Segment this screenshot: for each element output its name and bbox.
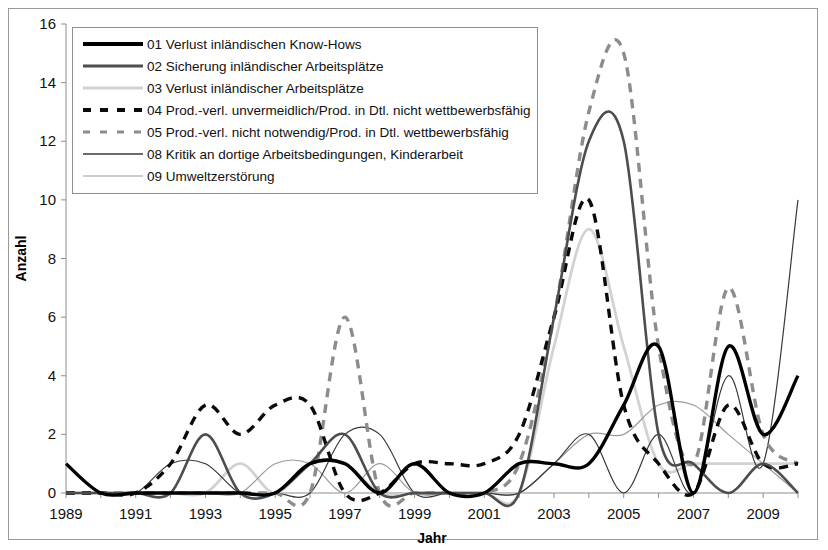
legend-item-02: 02 Sicherung inländischer Arbeitsplätze (79, 55, 531, 77)
legend-item-04: 04 Prod.-verl. unvermeidlich/Prod. in Dt… (79, 99, 531, 121)
legend-swatch-02 (79, 55, 147, 77)
x-tick-label: 1995 (258, 505, 291, 522)
x-tick-label: 1999 (398, 505, 431, 522)
legend-label-09: 09 Umweltzerstörung (147, 169, 275, 184)
legend-swatch-08 (79, 143, 147, 165)
axis-titles: AnzahlJahr (13, 236, 447, 546)
y-tick-label: 6 (48, 308, 56, 325)
legend-swatch-09 (79, 165, 147, 187)
legend-swatch-03 (79, 77, 147, 99)
legend-item-03: 03 Verlust inländischer Arbeitsplätze (79, 77, 531, 99)
x-tick-label: 1993 (189, 505, 222, 522)
x-tick-label: 2005 (607, 505, 640, 522)
x-tick-label: 1989 (49, 505, 82, 522)
x-tick-label: 2001 (468, 505, 501, 522)
legend-item-08: 08 Kritik an dortige Arbeitsbedingungen,… (79, 143, 531, 165)
series-line-01 (66, 344, 798, 497)
y-tick-label: 4 (48, 367, 56, 384)
x-tick-label: 1997 (328, 505, 361, 522)
y-tick-label: 0 (48, 484, 56, 501)
legend-label-05: 05 Prod.-verl. nicht notwendig/Prod. in … (147, 125, 509, 140)
legend-label-04: 04 Prod.-verl. unvermeidlich/Prod. in Dt… (147, 103, 530, 118)
x-tick-label: 2009 (746, 505, 779, 522)
x-tick-label: 2003 (537, 505, 570, 522)
series-line-04 (66, 198, 798, 500)
legend-label-08: 08 Kritik an dortige Arbeitsbedingungen,… (147, 147, 463, 162)
legend-item-05: 05 Prod.-verl. nicht notwendig/Prod. in … (79, 121, 531, 143)
legend-item-09: 09 Umweltzerstörung (79, 165, 531, 187)
legend-swatch-05 (79, 121, 147, 143)
y-tick-label: 10 (39, 191, 56, 208)
y-axis-title: Anzahl (13, 236, 29, 282)
legend-label-02: 02 Sicherung inländischer Arbeitsplätze (147, 59, 383, 74)
legend-label-01: 01 Verlust inländischen Know-Hows (147, 37, 362, 52)
y-tick-label: 2 (48, 425, 56, 442)
y-tick-label: 14 (39, 74, 56, 91)
legend-item-01: 01 Verlust inländischen Know-Hows (79, 33, 531, 55)
y-tick-label: 12 (39, 132, 56, 149)
y-tick-label: 8 (48, 250, 56, 267)
x-tick-label: 2007 (677, 505, 710, 522)
legend-label-03: 03 Verlust inländischer Arbeitsplätze (147, 81, 364, 96)
chart-legend: 01 Verlust inländischen Know-Hows02 Sich… (72, 27, 538, 194)
x-tick-label: 1991 (119, 505, 152, 522)
x-axis-title: Jahr (417, 530, 447, 546)
y-tick-label: 16 (39, 15, 56, 32)
legend-swatch-01 (79, 33, 147, 55)
legend-swatch-04 (79, 99, 147, 121)
